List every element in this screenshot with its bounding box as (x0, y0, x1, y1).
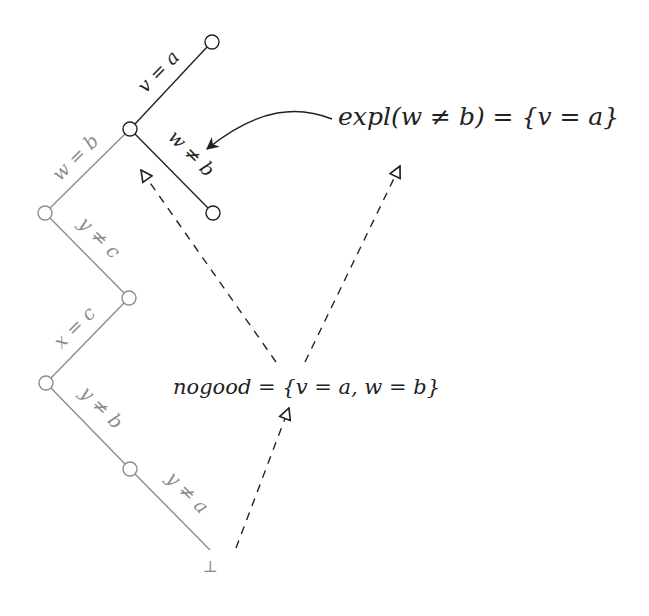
dashed-arrow-to-w-neq-b (141, 170, 276, 362)
node-n6 (123, 462, 137, 476)
label-x-eq-c: x = c (49, 302, 100, 353)
label-w-eq-b: w = b (47, 129, 102, 184)
label-y-neq-b: y ≠ b (75, 381, 127, 433)
dashed-arrow-to-nogood (236, 408, 289, 548)
node-n2 (206, 206, 220, 220)
search-tree-diagram: ⊥ v = a w ≠ b w = b y ≠ c x = c y ≠ b y … (0, 0, 649, 616)
node-n0 (205, 35, 219, 49)
nodes (38, 35, 220, 476)
root-bottom-symbol: ⊥ (202, 557, 217, 576)
label-y-neq-c: y ≠ c (74, 211, 125, 262)
node-n3 (38, 206, 52, 220)
dashed-arrow-to-explanation (305, 166, 400, 362)
node-n4 (122, 291, 136, 305)
explanation-formula: expl(w ≠ b) = {v = a} (338, 102, 619, 131)
node-n1 (123, 122, 137, 136)
nogood-formula: nogood = {v = a, w = b} (173, 375, 440, 399)
node-n5 (39, 376, 53, 390)
label-v-eq-a: v = a (133, 45, 184, 96)
explanation-arrow (207, 111, 332, 149)
